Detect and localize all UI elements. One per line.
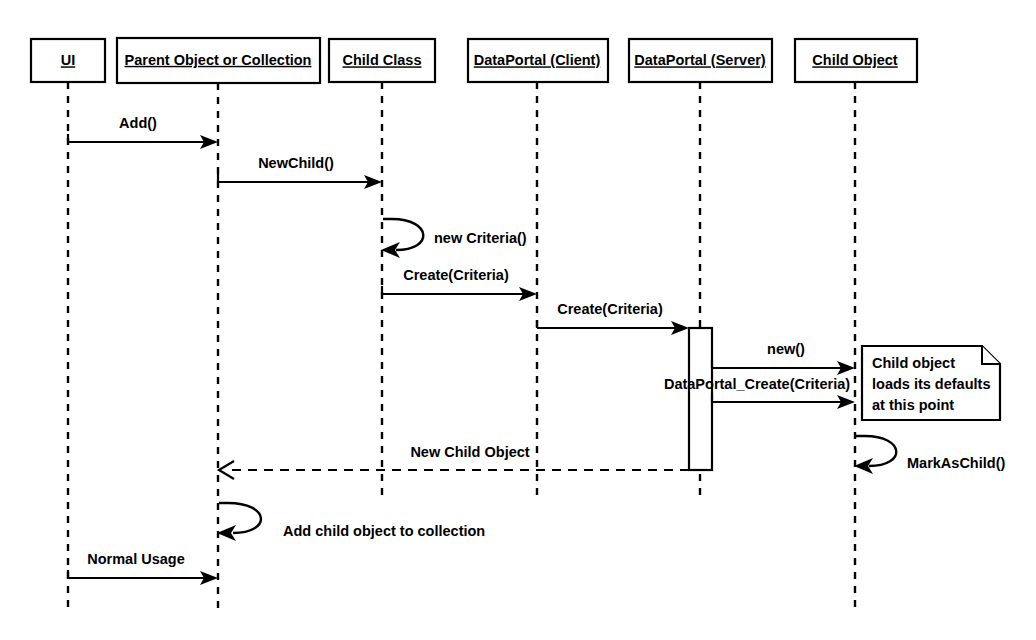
- message-newchild[interactable]: NewChild(): [218, 155, 382, 189]
- message-label: new Criteria(): [434, 230, 527, 246]
- message-label: Add child object to collection: [283, 523, 485, 539]
- activation-bar-dataportal-server: [689, 328, 712, 470]
- message-add[interactable]: Add(): [68, 115, 218, 149]
- sequence-diagram-canvas: UI Parent Object or Collection Child Cla…: [0, 0, 1036, 640]
- message-label: DataPortal_Create(Criteria): [664, 376, 850, 392]
- lifeline-header-label: DataPortal (Client): [474, 52, 601, 68]
- message-label: MarkAsChild(): [907, 455, 1005, 471]
- self-call-loop: [383, 219, 423, 250]
- note-fold-corner-icon: [982, 346, 1000, 364]
- message-label: Create(Criteria): [557, 301, 663, 317]
- lifeline-header-child-class[interactable]: Child Class: [329, 39, 435, 82]
- lifeline-header-label: Parent Object or Collection: [125, 52, 312, 68]
- lifeline-header-child-object[interactable]: Child Object: [795, 39, 917, 82]
- lifeline-header-label: Child Class: [343, 52, 422, 68]
- message-label: Add(): [119, 115, 157, 131]
- message-new[interactable]: new(): [712, 341, 855, 375]
- message-label: Normal Usage: [87, 551, 185, 567]
- lifeline-header-label: Child Object: [812, 52, 898, 68]
- lifeline-header-label: UI: [61, 52, 76, 68]
- lifeline-header-label: DataPortal (Server): [634, 52, 766, 68]
- message-create-criteria-server[interactable]: Create(Criteria): [537, 301, 689, 335]
- uml-sequence-diagram: UI Parent Object or Collection Child Cla…: [0, 0, 1036, 640]
- note-line: at this point: [872, 397, 954, 413]
- message-label: new(): [767, 341, 805, 357]
- arrowhead-open-icon: [219, 461, 234, 479]
- self-call-loop: [856, 436, 896, 466]
- message-new-criteria[interactable]: new Criteria(): [381, 219, 527, 258]
- lifeline-header-parent-object-or-collection[interactable]: Parent Object or Collection: [117, 38, 320, 83]
- note-line: loads its defaults: [872, 376, 990, 392]
- note-line: Child object: [872, 355, 955, 371]
- lifeline-header-dataportal-client[interactable]: DataPortal (Client): [468, 39, 608, 82]
- message-add-child-object-to-collection[interactable]: Add child object to collection: [217, 503, 485, 541]
- message-label: New Child Object: [410, 444, 529, 460]
- message-label: NewChild(): [258, 155, 334, 171]
- note-child-defaults: Child object loads its defaults at this …: [862, 346, 1000, 420]
- activation-rect: [689, 328, 712, 470]
- message-label: Create(Criteria): [403, 267, 509, 283]
- lifeline-header-dataportal-server[interactable]: DataPortal (Server): [629, 39, 772, 82]
- message-markaschild[interactable]: MarkAsChild(): [854, 436, 1005, 474]
- self-call-loop: [219, 503, 261, 533]
- message-normal-usage[interactable]: Normal Usage: [68, 551, 218, 585]
- message-create-criteria-client[interactable]: Create(Criteria): [382, 267, 537, 301]
- lifeline-header-ui[interactable]: UI: [31, 39, 105, 82]
- message-new-child-object-return[interactable]: New Child Object: [219, 444, 689, 479]
- lifeline-headers-group: UI Parent Object or Collection Child Cla…: [31, 38, 917, 83]
